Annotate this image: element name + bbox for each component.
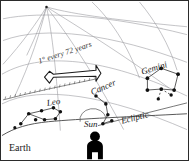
precession-arrow: [45, 65, 101, 83]
earth-label: Earth: [9, 142, 31, 153]
celestial-sphere-diagram: [1, 1, 188, 160]
diagram-frame: 1° every 72 years Leo Cancer Gemini Sun …: [0, 0, 189, 161]
constellation-leo: [13, 106, 62, 129]
sun-label: Sun: [84, 119, 98, 129]
celestial-pole-marker: [45, 6, 48, 9]
constellation-label-leo: Leo: [46, 96, 61, 108]
observer-figure: [87, 132, 103, 160]
